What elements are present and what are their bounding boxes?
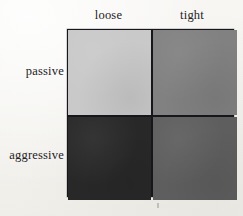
matrix-cell-aggressive-tight [153, 117, 237, 200]
scan-artifact-mark [157, 203, 159, 208]
matrix-cell-passive-tight [153, 30, 237, 115]
row-header-aggressive: aggressive [0, 147, 64, 163]
column-header-tight: tight [150, 7, 234, 23]
matrix-cell-aggressive-loose [68, 117, 151, 200]
matrix-diagram: loose tight passive aggressive [0, 0, 243, 216]
matrix-grid [67, 29, 234, 197]
column-header-loose: loose [67, 7, 150, 23]
row-header-passive: passive [0, 63, 64, 79]
matrix-cell-passive-loose [68, 30, 151, 115]
